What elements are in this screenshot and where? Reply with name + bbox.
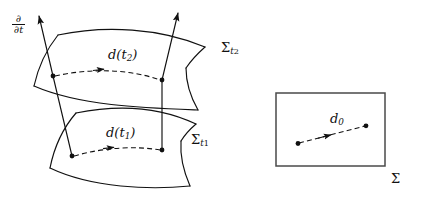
tangent-vector-right bbox=[162, 13, 178, 80]
displacement-arrow-d0 bbox=[299, 126, 365, 143]
lower-surface-left-edge bbox=[50, 113, 76, 168]
tangent-vector-label: ∂ ∂t bbox=[12, 14, 25, 35]
displacement-arrow-t1 bbox=[74, 148, 160, 156]
flow-line-left bbox=[39, 16, 72, 156]
upper-surface-right-lower-edge bbox=[186, 68, 198, 110]
displacement-arrowhead-d0 bbox=[318, 135, 331, 138]
lower-surface-bottom-edge bbox=[50, 168, 190, 188]
upper-surface-right-edge bbox=[186, 47, 205, 68]
displacement-arrowhead-t2 bbox=[93, 69, 104, 70]
lower-right-point bbox=[160, 148, 165, 153]
sigma-t2-glyph: Σ bbox=[221, 40, 230, 55]
sigma-t2-label: Σt2 bbox=[221, 41, 239, 56]
displacement-t1-label: d(t1) bbox=[106, 126, 135, 141]
upper-hypersurface bbox=[34, 29, 205, 110]
displacement-arrow-t2 bbox=[55, 71, 160, 80]
dt1-close: ) bbox=[130, 125, 135, 140]
flow-line-right bbox=[162, 13, 178, 150]
partial-numerator: ∂ bbox=[12, 14, 25, 24]
d0-subscript: 0 bbox=[338, 117, 344, 127]
upper-surface-top-edge bbox=[58, 29, 205, 47]
dt2-close: ) bbox=[132, 47, 137, 62]
box-right-point bbox=[364, 123, 369, 128]
upper-right-point bbox=[160, 78, 165, 83]
tangent-vector-left bbox=[39, 16, 53, 76]
dt1-text: d(t bbox=[106, 125, 125, 140]
lower-left-point bbox=[70, 154, 75, 159]
flow-segment-lower-left bbox=[53, 76, 72, 156]
dt2-text: d(t bbox=[108, 47, 127, 62]
manifold-box-rect bbox=[276, 93, 385, 166]
box-left-point bbox=[296, 141, 301, 146]
lower-surface-top-edge bbox=[76, 108, 196, 124]
lower-surface-right-lower-edge bbox=[181, 141, 190, 186]
sigma-label: Σ bbox=[391, 172, 400, 185]
partial-denominator: ∂t bbox=[12, 24, 25, 35]
displacement-d0-label: d0 bbox=[330, 112, 344, 127]
displacement-t2-label: d(t2) bbox=[108, 48, 137, 63]
sigma-t1-subsubscript: 1 bbox=[204, 139, 209, 148]
sigma-t1-label: Σt1 bbox=[191, 133, 209, 148]
displacement-arrowhead-t1 bbox=[103, 147, 114, 148]
sigma-t2-subsubscript: 2 bbox=[234, 47, 239, 56]
hypersurface-diagram bbox=[0, 0, 423, 198]
upper-left-point bbox=[51, 74, 56, 79]
abstract-manifold-box bbox=[276, 93, 385, 166]
sigma-glyph: Σ bbox=[391, 171, 400, 186]
sigma-t1-glyph: Σ bbox=[191, 132, 200, 147]
upper-surface-left-edge bbox=[34, 35, 58, 86]
